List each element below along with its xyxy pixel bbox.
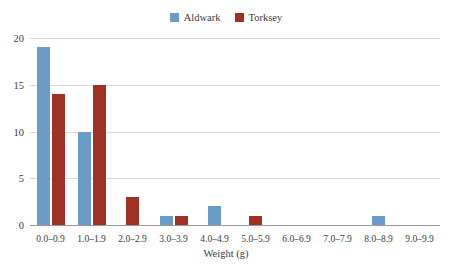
- x-axis-tick-label: 2.0–2.9: [112, 234, 153, 245]
- bar-aldwark[interactable]: [372, 216, 385, 225]
- x-axis-tick-label: 8.0–8.9: [358, 234, 399, 245]
- bar-group: [358, 38, 399, 225]
- bars-layer: [30, 38, 440, 225]
- bar-group: [194, 38, 235, 225]
- legend-label: Aldwark: [184, 12, 221, 23]
- legend-swatch-icon: [235, 13, 244, 22]
- bar-group: [317, 38, 358, 225]
- x-axis-tick-label: 4.0–4.9: [194, 234, 235, 245]
- x-axis-tick-label: 0.0–0.9: [30, 234, 71, 245]
- bar-torksey[interactable]: [126, 197, 139, 225]
- x-axis-tick-label: 1.0–1.9: [71, 234, 112, 245]
- bar-group: [112, 38, 153, 225]
- bar-group: [235, 38, 276, 225]
- y-axis-tick-label: 10: [14, 126, 25, 137]
- bar-group: [399, 38, 440, 225]
- y-axis-tick-label: 20: [14, 33, 25, 44]
- x-axis-tick-label: 6.0–6.9: [276, 234, 317, 245]
- bar-group: [153, 38, 194, 225]
- x-axis-tick-label: 5.0–5.9: [235, 234, 276, 245]
- x-axis-tick-label: 3.0–3.9: [153, 234, 194, 245]
- legend-label: Torksey: [249, 12, 283, 23]
- legend-item-aldwark[interactable]: Aldwark: [170, 12, 221, 23]
- legend-item-torksey[interactable]: Torksey: [235, 12, 283, 23]
- axis-baseline: 0: [30, 225, 440, 226]
- x-axis-tick-label: 7.0–7.9: [317, 234, 358, 245]
- y-axis-tick-label: 0: [19, 220, 24, 231]
- x-axis-tick-labels: 0.0–0.91.0–1.92.0–2.93.0–3.94.0–4.95.0–5…: [30, 234, 440, 245]
- y-axis-tick-label: 5: [19, 173, 24, 184]
- bar-torksey[interactable]: [93, 85, 106, 225]
- bar-torksey[interactable]: [175, 216, 188, 225]
- plot-wrapper: 05101520: [0, 32, 452, 232]
- legend-swatch-icon: [170, 13, 179, 22]
- bar-aldwark[interactable]: [208, 206, 221, 225]
- chart-legend: AldwarkTorksey: [0, 12, 452, 23]
- x-axis-title: Weight (g): [0, 248, 452, 260]
- bar-group: [30, 38, 71, 225]
- bar-aldwark[interactable]: [37, 47, 50, 225]
- bar-chart: AldwarkTorksey 05101520 0.0–0.91.0–1.92.…: [0, 0, 452, 266]
- bar-group: [276, 38, 317, 225]
- bar-torksey[interactable]: [52, 94, 65, 225]
- bar-aldwark[interactable]: [78, 132, 91, 226]
- y-axis-tick-label: 15: [14, 79, 25, 90]
- x-axis-tick-label: 9.0–9.9: [399, 234, 440, 245]
- bar-torksey[interactable]: [249, 216, 262, 225]
- bar-group: [71, 38, 112, 225]
- plot-area: 05101520: [30, 38, 440, 225]
- bar-aldwark[interactable]: [160, 216, 173, 225]
